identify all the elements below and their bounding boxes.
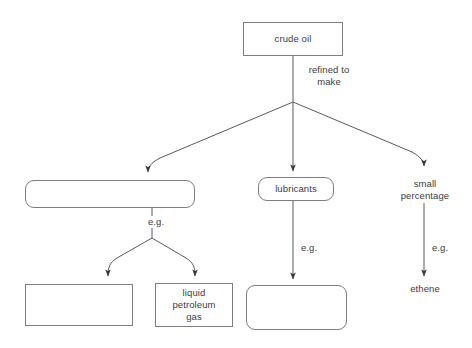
edge-fraction-left-to-product-bottom-left	[108, 238, 152, 276]
edge-fraction-left-to-liquid-petroleum-gas	[152, 238, 195, 276]
node-ethene: ethene	[400, 281, 450, 297]
edge-label-eg-middle: e.g.	[297, 242, 321, 254]
node-fraction-left	[25, 180, 195, 208]
node-product-bottom-middle	[246, 285, 347, 330]
edge-label-eg-left: e.g.	[144, 216, 168, 228]
edge-label-refined-to-make: refined to make	[297, 64, 361, 88]
node-crude-oil-label: crude oil	[275, 33, 312, 45]
edge-crude-oil-to-small-percentage	[293, 102, 424, 166]
node-lubricants: lubricants	[258, 177, 334, 201]
node-small-percentage: small percentage	[394, 176, 456, 204]
node-liquid-petroleum-gas: liquid petroleum gas	[155, 283, 233, 327]
node-lubricants-label: lubricants	[275, 183, 317, 195]
flowchart-canvas: crude oil refined to make lubricants sma…	[0, 0, 472, 348]
edge-crude-oil-to-fraction-left	[148, 102, 293, 172]
node-product-bottom-left	[25, 284, 133, 326]
edge-label-eg-right: e.g.	[428, 242, 452, 254]
node-crude-oil: crude oil	[243, 22, 343, 56]
node-liquid-petroleum-gas-label: liquid petroleum gas	[172, 287, 215, 323]
